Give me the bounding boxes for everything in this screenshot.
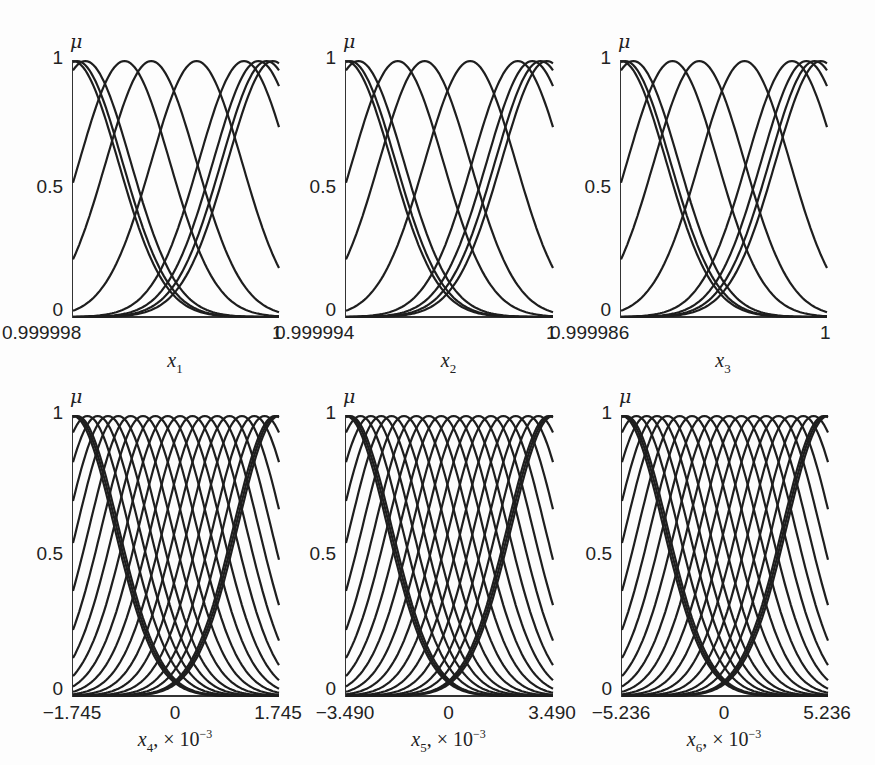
y-tick-label: 0 [296,678,336,700]
x-tick-label: 0.999986 [550,322,629,344]
x-axis-label: x3 [715,348,730,377]
x-axis-label: x4, × 10−3 [138,727,212,756]
gaussian-curves [621,60,827,318]
y-tick-label: 1 [23,47,63,69]
y-tick-label: 0 [572,678,612,700]
gaussian-curves [346,415,553,697]
y-tick-label: 0.5 [572,543,612,565]
plot-area [345,415,552,697]
y-tick-label: 0.5 [296,176,336,198]
y-axis-label: μ [70,30,82,52]
y-axis-label: μ [70,385,82,407]
y-tick-label: 1 [23,402,63,424]
y-tick-label: 1 [572,402,612,424]
y-tick-label: 0 [23,678,63,700]
y-tick-label: 1 [296,47,336,69]
x-axis-label: x2 [441,348,456,377]
y-tick-label: 1 [296,402,336,424]
x-axis-label: x6, × 10−3 [687,727,761,756]
y-tick-label: 1 [571,47,611,69]
y-tick-label: 0 [23,299,63,321]
y-tick-label: 0 [296,299,336,321]
y-axis-label: μ [343,30,355,52]
y-tick-label: 0.5 [23,176,63,198]
plot-area [72,415,278,697]
x-tick-label: −3.490 [316,702,375,724]
gaussian-curves [346,60,553,318]
gaussian-curves [73,60,279,318]
plot-area [620,60,826,318]
x-axis-label: x5, × 10−3 [411,727,485,756]
x-tick-label: 0.999998 [2,322,81,344]
plot-area [72,60,278,318]
x-tick-label: −5.236 [592,702,651,724]
x-tick-label: 1.745 [254,702,302,724]
y-tick-label: 0.5 [571,176,611,198]
y-axis-label: μ [618,30,630,52]
y-tick-label: 0 [571,299,611,321]
y-tick-label: 0.5 [23,543,63,565]
y-tick-label: 0.5 [296,543,336,565]
x-tick-label: −1.745 [43,702,102,724]
gaussian-curves [622,415,828,697]
x-tick-label: 0.999994 [275,322,354,344]
x-tick-label: 0 [719,702,730,724]
plot-area [345,60,552,318]
x-tick-label: 3.490 [528,702,576,724]
x-tick-label: 0 [170,702,181,724]
x-tick-label: 5.236 [803,702,851,724]
plot-area [621,415,827,697]
y-axis-label: μ [343,385,355,407]
gaussian-curves [73,415,279,697]
x-axis-label: x1 [167,348,182,377]
y-axis-label: μ [619,385,631,407]
x-tick-label: 1 [820,322,831,344]
x-tick-label: 0 [443,702,454,724]
